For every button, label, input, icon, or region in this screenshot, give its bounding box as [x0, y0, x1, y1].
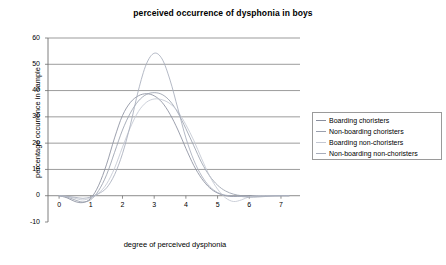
legend-item[interactable]: Non-boarding choristers	[316, 126, 438, 137]
legend-item-label: Boarding non-choristers	[329, 137, 403, 148]
data-series-layer	[59, 53, 289, 203]
legend-swatch-icon	[316, 120, 326, 121]
legend-item-label: Boarding choristers	[329, 115, 389, 126]
series-line-2	[59, 93, 289, 202]
gridlines	[48, 38, 300, 196]
legend-item-label: Non-boarding non-choristers	[329, 148, 418, 159]
legend-swatch-icon	[316, 142, 326, 143]
series-line-4	[59, 53, 289, 198]
series-line-3	[59, 99, 289, 202]
legend-item[interactable]: Boarding non-choristers	[316, 137, 438, 148]
legend: Boarding choristersNon-boarding choriste…	[312, 112, 442, 160]
legend-swatch-icon	[316, 131, 326, 132]
legend-item[interactable]: Non-boarding non-choristers	[316, 148, 438, 159]
legend-item[interactable]: Boarding choristers	[316, 115, 438, 126]
legend-item-label: Non-boarding choristers	[329, 126, 404, 137]
series-line-1	[59, 94, 289, 203]
legend-swatch-icon	[316, 153, 326, 154]
chart-container: perceived occurrence of dysphonia in boy…	[0, 0, 446, 265]
